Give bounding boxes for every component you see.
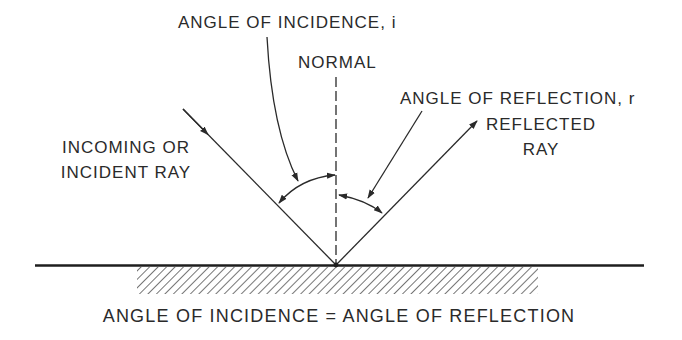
hatched-medium — [137, 267, 538, 294]
reflection-angle-arc — [339, 195, 382, 213]
incident-ray-label-line2: INCIDENT RAY — [61, 163, 191, 182]
angle-of-incidence-label: ANGLE OF INCIDENCE, i — [178, 13, 396, 32]
normal-label: NORMAL — [298, 53, 377, 72]
incident-ray — [183, 109, 336, 265]
law-caption: ANGLE OF INCIDENCE = ANGLE OF REFLECTION — [103, 306, 576, 326]
reflection-diagram: ANGLE OF INCIDENCE, i NORMAL ANGLE OF RE… — [0, 0, 682, 340]
incidence-angle-arc — [279, 175, 335, 203]
reflected-ray-label-line2: RAY — [523, 140, 560, 159]
incident-ray-label-line1: INCOMING OR — [62, 138, 190, 157]
reflected-ray-label-line1: REFLECTED — [486, 115, 596, 134]
reflected-ray — [336, 121, 477, 265]
incidence-pointer — [267, 37, 298, 181]
angle-of-reflection-label: ANGLE OF REFLECTION, r — [400, 89, 635, 108]
point-of-incidence — [334, 263, 339, 268]
